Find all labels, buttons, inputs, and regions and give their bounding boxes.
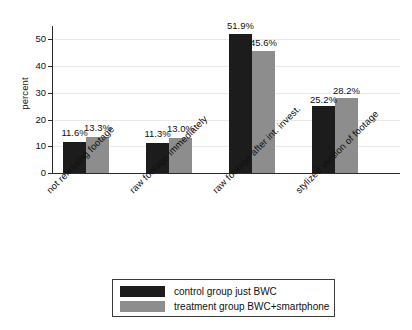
y-tick-label-40: 40 — [24, 61, 46, 71]
y-tick-mark-10 — [48, 146, 52, 147]
bar-value-control-2: 51.9% — [224, 20, 257, 31]
bar-value-treatment-3: 28.2% — [330, 85, 363, 96]
y-tick-mark-50 — [48, 39, 52, 40]
y-tick-label-10: 10 — [24, 141, 46, 151]
gridline-50 — [53, 39, 400, 40]
plot-area: 11.6% 13.3% 11.3% 13.0% 51.9% 45.6% 25.2… — [52, 26, 400, 173]
y-tick-label-30: 30 — [24, 88, 46, 98]
legend-item-control: control group just BWC — [120, 284, 277, 299]
y-axis-line — [52, 26, 53, 174]
chart-legend: control group just BWC treatment group B… — [112, 279, 335, 317]
y-tick-label-20: 20 — [24, 115, 46, 125]
legend-label-treatment: treatment group BWC+smartphone — [174, 301, 329, 312]
legend-item-treatment: treatment group BWC+smartphone — [120, 299, 329, 314]
legend-swatch-treatment — [120, 301, 165, 312]
legend-swatch-control — [120, 286, 165, 297]
bar-value-treatment-2: 45.6% — [247, 37, 280, 48]
y-tick-mark-0 — [48, 173, 52, 174]
legend-label-control: control group just BWC — [174, 286, 277, 297]
bar-chart: percent 0 10 20 30 40 50 11.6% 13.3% 11.… — [0, 0, 412, 330]
y-tick-label-0: 0 — [24, 168, 46, 178]
y-tick-label-50: 50 — [24, 34, 46, 44]
gridline-40 — [53, 66, 400, 67]
y-tick-mark-40 — [48, 66, 52, 67]
y-tick-mark-20 — [48, 120, 52, 121]
y-tick-mark-30 — [48, 93, 52, 94]
